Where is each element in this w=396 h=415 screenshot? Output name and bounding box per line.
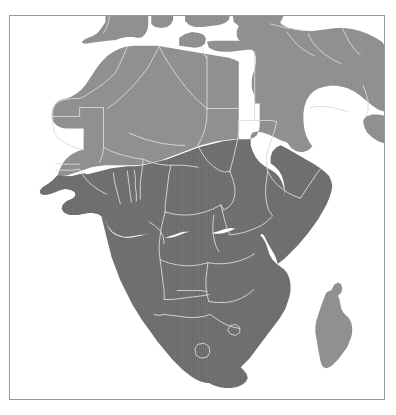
map-figure: [0, 0, 396, 415]
dither-overlay: [10, 16, 384, 399]
map-frame: [9, 15, 385, 400]
africa-map: [10, 16, 384, 399]
